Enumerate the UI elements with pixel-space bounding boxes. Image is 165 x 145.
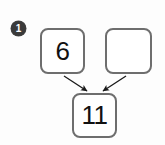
addend-left-value: 6 bbox=[56, 36, 70, 67]
problem-number-badge-icon: 1 bbox=[11, 21, 26, 36]
addend-box-left[interactable]: 6 bbox=[40, 28, 85, 74]
worksheet-problem: 1 6 11 bbox=[0, 0, 165, 145]
total-value: 11 bbox=[82, 100, 108, 131]
addend-box-right-empty[interactable] bbox=[105, 28, 152, 74]
arrow-right-to-total bbox=[103, 76, 126, 91]
total-box[interactable]: 11 bbox=[72, 93, 117, 138]
arrow-left-to-total bbox=[64, 76, 87, 91]
